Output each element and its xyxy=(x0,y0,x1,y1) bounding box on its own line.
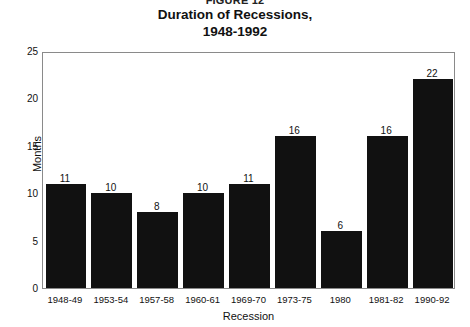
x-tick-label: 1981-82 xyxy=(360,294,412,305)
y-tick-label: 5 xyxy=(6,237,38,247)
x-tick-label: 1973-75 xyxy=(268,294,320,305)
bar-value-label: 16 xyxy=(271,125,317,136)
x-tick-label: 1960-61 xyxy=(177,294,229,305)
x-tick-label: 1990-92 xyxy=(406,294,458,305)
chart-title-line-2: 1948-1992 xyxy=(0,23,470,40)
chart-title-line-1: Duration of Recessions, xyxy=(0,6,470,23)
chart-title: Duration of Recessions, 1948-1992 xyxy=(0,6,470,40)
y-axis-tick-labels: 0510152025 xyxy=(0,0,38,327)
y-tick-label: 20 xyxy=(6,94,38,104)
bar xyxy=(183,193,224,288)
bar xyxy=(367,136,408,288)
bar-value-label: 6 xyxy=(317,220,363,231)
x-tick-label: 1948-49 xyxy=(39,294,91,305)
bar xyxy=(413,79,454,288)
y-tick-label: 0 xyxy=(6,284,38,294)
x-tick-label: 1969-70 xyxy=(223,294,275,305)
bar-value-label: 11 xyxy=(42,173,88,184)
plot-area xyxy=(42,52,455,289)
y-tick-label: 25 xyxy=(6,47,38,57)
bar xyxy=(229,184,270,288)
bar-value-label: 10 xyxy=(180,182,226,193)
bar xyxy=(91,193,132,288)
bar-value-label: 10 xyxy=(88,182,134,193)
x-axis-label: Recession xyxy=(42,310,455,322)
bar xyxy=(321,231,362,288)
bar xyxy=(275,136,316,288)
bar-value-label: 11 xyxy=(226,173,272,184)
y-tick-label: 10 xyxy=(6,189,38,199)
bar xyxy=(137,212,178,288)
x-tick-label: 1980 xyxy=(314,294,366,305)
x-tick-label: 1953-54 xyxy=(85,294,137,305)
bar-value-label: 22 xyxy=(409,68,455,79)
x-tick-label: 1957-58 xyxy=(131,294,183,305)
bar-value-label: 16 xyxy=(363,125,409,136)
bar-value-label: 8 xyxy=(134,201,180,212)
y-tick-label: 15 xyxy=(6,142,38,152)
bar xyxy=(46,184,87,288)
